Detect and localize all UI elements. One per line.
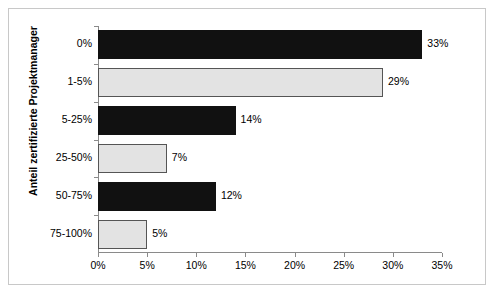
bar	[98, 30, 422, 59]
x-tick-mark	[196, 253, 197, 257]
category-label: 1-5%	[14, 75, 92, 87]
bar	[98, 144, 167, 173]
y-tick-mark	[94, 215, 98, 216]
bar-value-label: 12%	[221, 189, 242, 201]
x-tick-mark	[245, 253, 246, 257]
x-tick-label: 0%	[78, 259, 118, 271]
x-tick-label: 35%	[422, 259, 462, 271]
bar-value-label: 7%	[172, 151, 187, 163]
category-label: 75-100%	[14, 227, 92, 239]
y-tick-mark	[94, 140, 98, 141]
category-label: 25-50%	[14, 151, 92, 163]
x-tick-mark	[393, 253, 394, 257]
x-tick-mark	[98, 253, 99, 257]
bar-value-label: 29%	[388, 75, 409, 87]
category-label: 0%	[14, 37, 92, 49]
x-tick-mark	[295, 253, 296, 257]
chart-frame: Anteil zertifizierte Projektmanager 0%5%…	[8, 8, 486, 285]
plot-area: 0%5%10%15%20%25%30%35% 33%0%29%1-5%14%5-…	[98, 26, 442, 253]
bar-row: 29%1-5%	[98, 68, 442, 97]
y-tick-mark	[94, 102, 98, 103]
bar	[98, 68, 383, 97]
bar	[98, 220, 147, 249]
category-label: 5-25%	[14, 113, 92, 125]
x-tick-label: 20%	[275, 259, 315, 271]
x-tick-label: 10%	[176, 259, 216, 271]
bar-row: 14%5-25%	[98, 106, 442, 135]
bar-row: 12%50-75%	[98, 182, 442, 211]
bar	[98, 182, 216, 211]
x-tick-label: 30%	[373, 259, 413, 271]
bar-value-label: 33%	[427, 37, 448, 49]
y-tick-mark	[94, 177, 98, 178]
bar-value-label: 14%	[241, 113, 262, 125]
bar-row: 5%75-100%	[98, 220, 442, 249]
bar-value-label: 5%	[152, 227, 167, 239]
y-tick-mark	[94, 26, 98, 27]
x-tick-mark	[442, 253, 443, 257]
x-tick-label: 5%	[127, 259, 167, 271]
bar-row: 33%0%	[98, 30, 442, 59]
x-tick-label: 25%	[324, 259, 364, 271]
x-tick-label: 15%	[225, 259, 265, 271]
category-label: 50-75%	[14, 189, 92, 201]
bar-row: 7%25-50%	[98, 144, 442, 173]
y-tick-mark	[94, 64, 98, 65]
bar	[98, 106, 236, 135]
x-tick-mark	[344, 253, 345, 257]
x-tick-mark	[147, 253, 148, 257]
x-axis-line	[98, 252, 442, 253]
